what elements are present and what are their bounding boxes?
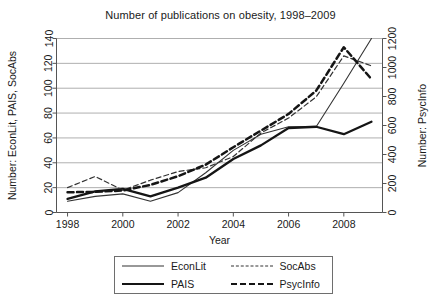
- legend-item-socabs: SocAbs: [224, 260, 333, 272]
- svg-text:Year: Year: [209, 234, 231, 246]
- legend-line-psycinfo-icon: [231, 279, 273, 289]
- svg-text:0: 0: [43, 209, 55, 215]
- legend-item-psycinfo: PsycInfo: [224, 278, 333, 290]
- legend-line-econlit-icon: [122, 261, 164, 271]
- svg-text:0: 0: [386, 209, 398, 215]
- legend-label-econlit: EconLit: [171, 260, 206, 272]
- legend-item-econlit: EconLit: [115, 260, 224, 272]
- svg-text:2004: 2004: [222, 218, 246, 230]
- series-line-socabs: [68, 56, 372, 190]
- svg-text:2006: 2006: [277, 218, 301, 230]
- svg-text:140: 140: [43, 30, 55, 48]
- legend-line-socabs-icon: [231, 261, 273, 271]
- legend-line-pais-icon: [122, 279, 164, 289]
- svg-text:80: 80: [43, 107, 55, 119]
- svg-text:600: 600: [386, 117, 398, 135]
- svg-text:Number: EconLit, PAIS, SocAbs: Number: EconLit, PAIS, SocAbs: [6, 51, 18, 200]
- svg-text:2002: 2002: [166, 218, 190, 230]
- svg-text:2008: 2008: [332, 218, 356, 230]
- svg-text:200: 200: [386, 175, 398, 193]
- svg-text:1998: 1998: [56, 218, 80, 230]
- svg-text:Number: PsycInfo: Number: PsycInfo: [416, 84, 428, 168]
- legend-label-psycinfo: PsycInfo: [280, 278, 320, 290]
- legend-label-socabs: SocAbs: [280, 260, 316, 272]
- svg-text:400: 400: [386, 146, 398, 164]
- svg-text:2000: 2000: [111, 218, 135, 230]
- svg-text:120: 120: [43, 54, 55, 72]
- svg-text:40: 40: [43, 157, 55, 169]
- legend-item-pais: PAIS: [115, 278, 224, 290]
- svg-text:20: 20: [43, 182, 55, 194]
- data-series: [68, 39, 372, 202]
- svg-text:60: 60: [43, 132, 55, 144]
- svg-text:1200: 1200: [386, 27, 398, 51]
- series-line-econlit: [68, 39, 372, 202]
- svg-text:100: 100: [43, 79, 55, 97]
- series-line-psycinfo: [68, 47, 372, 192]
- axis-titles: YearNumber: EconLit, PAIS, SocAbsNumber:…: [6, 51, 428, 246]
- axis-tick-labels: 0204060801001201400200400600800100012001…: [43, 27, 398, 230]
- chart-figure: Number of publications on obesity, 1998–…: [0, 0, 441, 303]
- legend-label-pais: PAIS: [171, 278, 194, 290]
- svg-text:1000: 1000: [386, 56, 398, 80]
- chart-legend: EconLit SocAbs PAIS PsycInfo: [114, 256, 333, 294]
- svg-text:800: 800: [386, 88, 398, 106]
